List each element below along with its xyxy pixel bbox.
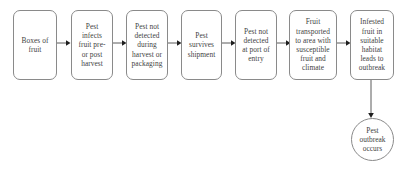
arrow-right-icon bbox=[168, 39, 182, 47]
flow-node-label: Pest outbreak occurs bbox=[352, 126, 393, 154]
flow-node-pest-outbreak-occurs[interactable]: Pest outbreak occurs bbox=[351, 118, 394, 161]
flow-node-infested-fruit-habitat[interactable]: Infested fruit in suitable habitat leads… bbox=[350, 10, 394, 80]
flow-node-label: Pest not detected at port of entry bbox=[238, 27, 274, 64]
flow-node-pest-infects-fruit[interactable]: Pest infects fruit pre- or post harvest bbox=[71, 10, 113, 80]
flow-node-pest-not-detected-port[interactable]: Pest not detected at port of entry bbox=[235, 10, 277, 80]
flow-node-label: Pest not detected during harvest or pack… bbox=[129, 22, 165, 68]
flow-node-label: Pest survives shipment bbox=[184, 31, 219, 59]
flow-node-label: Pest infects fruit pre- or post harvest bbox=[74, 22, 110, 68]
arrow-right-icon bbox=[57, 39, 71, 47]
flow-node-label: Fruit transported to area with susceptib… bbox=[292, 17, 334, 72]
arrow-right-icon bbox=[113, 39, 127, 47]
flow-node-pest-survives-shipment[interactable]: Pest survives shipment bbox=[181, 10, 222, 80]
arrow-right-icon bbox=[337, 39, 351, 47]
flow-node-label: Infested fruit in suitable habitat leads… bbox=[353, 17, 391, 72]
arrow-right-icon bbox=[222, 39, 236, 47]
flow-node-boxes-of-fruit[interactable]: Boxes of fruit bbox=[13, 10, 57, 80]
flow-node-fruit-transported[interactable]: Fruit transported to area with susceptib… bbox=[289, 10, 337, 80]
flow-node-pest-not-detected-harvest[interactable]: Pest not detected during harvest or pack… bbox=[126, 10, 168, 80]
arrow-down-icon bbox=[367, 80, 375, 119]
flowchart-canvas: Boxes of fruit Pest infects fruit pre- o… bbox=[0, 0, 411, 172]
flow-node-label: Boxes of fruit bbox=[16, 36, 54, 54]
